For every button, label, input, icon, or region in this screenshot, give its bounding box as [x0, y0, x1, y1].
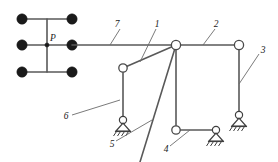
support-3-hatch-2	[234, 127, 237, 132]
label-2: 2	[214, 19, 219, 29]
support-4-hatch-3	[215, 142, 218, 147]
grid-node-bottom-left	[17, 67, 27, 77]
support-3-triangle	[232, 118, 246, 126]
leader-6	[72, 100, 120, 115]
joint-bottom-mid	[172, 126, 180, 134]
label-3: 3	[260, 45, 266, 55]
grid-node-top-right	[67, 14, 77, 24]
pin-support-5	[114, 116, 132, 136]
load-grid-assembly: P	[17, 14, 77, 77]
load-label-P: P	[49, 33, 56, 43]
joint-top-main	[171, 40, 180, 49]
support-5-hatch-3	[122, 132, 125, 137]
member-1-diagonal	[123, 45, 176, 68]
member-number-labels: 7 1 2 3 4 5 6	[64, 19, 266, 154]
joints-group	[119, 40, 244, 134]
diagram-canvas: P	[0, 0, 278, 162]
member-5-long-diagonal	[140, 45, 176, 162]
grid-node-top-left	[17, 14, 27, 24]
label-4: 4	[164, 144, 169, 154]
leader-7	[110, 29, 120, 45]
frame-members-group	[123, 45, 239, 162]
leader-3	[239, 54, 259, 84]
support-5-hatch-2	[118, 132, 121, 137]
load-point-marker	[45, 43, 49, 47]
label-1: 1	[155, 19, 160, 29]
joint-top-right	[234, 40, 243, 49]
support-5-triangle	[116, 123, 130, 131]
grid-node-mid-left	[17, 40, 27, 50]
support-4-hatch-4	[219, 142, 222, 147]
label-6: 6	[64, 111, 69, 121]
pin-support-3	[230, 111, 248, 131]
support-5-hatch-1	[114, 132, 117, 137]
structural-diagram: P	[0, 0, 278, 162]
leader-2	[203, 29, 215, 45]
support-3-hatch-3	[238, 127, 241, 132]
support-4-hatch-2	[211, 142, 214, 147]
joint-left	[119, 64, 127, 72]
support-4-triangle	[209, 133, 223, 141]
support-3-hatch-1	[230, 127, 233, 132]
support-4-hatch-1	[207, 142, 210, 147]
label-7: 7	[115, 19, 121, 29]
grid-node-bottom-right	[67, 67, 77, 77]
support-3-hatch-4	[242, 127, 245, 132]
label-5: 5	[110, 139, 115, 149]
